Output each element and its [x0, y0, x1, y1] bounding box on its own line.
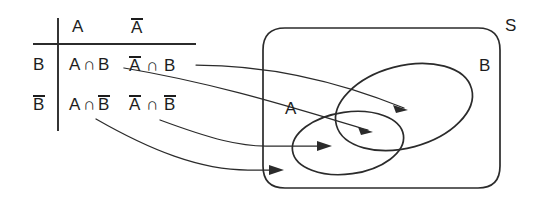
connector-line-abar-inter-b: [196, 65, 404, 108]
set-b-ellipse: [326, 49, 482, 164]
venn-diagram-figure: A A B B A∩B A∩B A∩B A∩B S B A: [0, 0, 535, 204]
table-cell-abar-inter-bbar: A∩B: [129, 95, 176, 113]
table-row-header-b: B: [33, 56, 45, 73]
set-a-ellipse: [288, 105, 408, 182]
table-cell-a-inter-b: A∩B: [69, 56, 110, 73]
connector-arrowhead-abar-inter-bbar: [269, 165, 284, 175]
universal-set-label: S: [505, 17, 517, 34]
table-column-header-a: A: [72, 18, 84, 35]
table-row-header-b-bar: B: [33, 95, 45, 113]
table-cell-a-inter-bbar: A∩B: [69, 95, 110, 113]
table-column-header-a-bar: A: [131, 18, 143, 36]
set-b-label: B: [479, 57, 491, 74]
table-cell-abar-inter-b: A∩B: [129, 56, 176, 74]
set-a-label: A: [285, 100, 297, 117]
connector-line-a-inter-bbar: [160, 120, 326, 146]
connector-arrowhead-a-inter-b: [358, 127, 373, 135]
connector-arrowhead-a-inter-bbar: [317, 141, 332, 151]
connector-line-abar-inter-bbar: [96, 119, 278, 170]
